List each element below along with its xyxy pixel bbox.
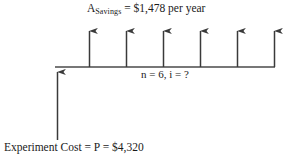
cash-flow-diagram: ASavings = $1,478 per year n = 6, i = ? … xyxy=(0,0,295,159)
savings-arrow-group xyxy=(90,31,275,67)
period-interest-label: n = 6, i = ? xyxy=(141,69,189,80)
savings-equation: = $1,478 per year xyxy=(121,2,205,14)
savings-amount-label: ASavings = $1,478 per year xyxy=(87,3,205,16)
experiment-cost-label: Experiment Cost = P = $4,320 xyxy=(4,142,144,154)
savings-subscript: Savings xyxy=(95,7,121,16)
